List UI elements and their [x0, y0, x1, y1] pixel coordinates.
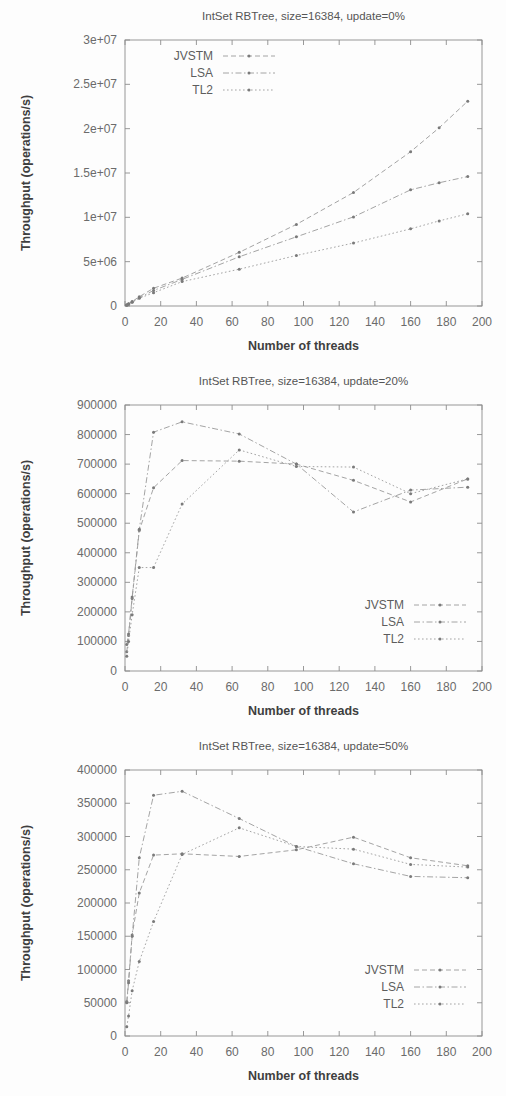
data-point-marker	[409, 150, 412, 153]
data-point-marker	[131, 935, 134, 938]
y-tick-label: 2e+07	[83, 122, 117, 136]
y-tick-label: 200000	[77, 605, 117, 619]
y-tick-label: 100000	[77, 963, 117, 977]
data-point-marker	[295, 848, 298, 851]
data-point-marker	[152, 291, 155, 294]
data-point-marker	[466, 212, 469, 215]
figure-sheet: IntSet RBTree, size=16384, update=0%05e+…	[0, 0, 506, 1096]
chart-title: IntSet RBTree, size=16384, update=0%	[202, 10, 405, 22]
x-tick-label: 60	[225, 680, 239, 694]
data-point-marker	[125, 1025, 128, 1028]
legend-label-JVSTM: JVSTM	[365, 963, 404, 977]
x-axis-label: Number of threads	[248, 704, 359, 718]
x-tick-label: 40	[190, 680, 204, 694]
x-tick-label: 180	[436, 1045, 456, 1059]
x-tick-label: 80	[261, 315, 275, 329]
data-point-marker	[409, 875, 412, 878]
data-point-marker	[152, 794, 155, 797]
data-point-marker	[152, 431, 155, 434]
x-tick-label: 40	[190, 315, 204, 329]
data-point-marker	[138, 960, 141, 963]
chart-background	[0, 730, 506, 1095]
x-tick-label: 160	[401, 1045, 421, 1059]
chart-panel: IntSet RBTree, size=16384, update=20%010…	[0, 365, 506, 730]
data-point-marker	[352, 479, 355, 482]
legend-marker-LSA	[439, 621, 442, 624]
chart-panel: IntSet RBTree, size=16384, update=0%05e+…	[0, 0, 506, 365]
data-point-marker	[127, 640, 130, 643]
data-point-marker	[238, 460, 241, 463]
data-point-marker	[138, 528, 141, 531]
x-tick-label: 60	[225, 315, 239, 329]
legend-label-TL2: TL2	[383, 997, 404, 1011]
y-axis-label: Throughput (operations/s)	[19, 825, 33, 981]
x-axis-label: Number of threads	[248, 339, 359, 353]
legend-label-JVSTM: JVSTM	[174, 49, 213, 63]
data-point-marker	[131, 301, 134, 304]
y-tick-label: 250000	[77, 863, 117, 877]
chart-background	[0, 0, 506, 365]
legend-marker-LSA	[439, 986, 442, 989]
data-point-marker	[238, 255, 241, 258]
data-point-marker	[409, 863, 412, 866]
data-point-marker	[295, 223, 298, 226]
x-tick-label: 120	[329, 1045, 349, 1059]
x-tick-label: 60	[225, 1045, 239, 1059]
y-tick-label: 350000	[77, 796, 117, 810]
x-tick-label: 140	[365, 1045, 385, 1059]
data-point-marker	[138, 566, 141, 569]
x-tick-label: 40	[190, 1045, 204, 1059]
data-point-marker	[466, 876, 469, 879]
y-axis-label: Throughput (operations/s)	[19, 95, 33, 251]
data-point-marker	[152, 566, 155, 569]
x-tick-label: 120	[329, 315, 349, 329]
legend-marker-TL2	[248, 89, 251, 92]
legend-label-JVSTM: JVSTM	[365, 598, 404, 612]
x-tick-label: 80	[261, 1045, 275, 1059]
data-point-marker	[127, 1015, 130, 1018]
data-point-marker	[438, 219, 441, 222]
data-point-marker	[138, 297, 141, 300]
data-point-marker	[409, 500, 412, 503]
data-point-marker	[352, 191, 355, 194]
y-tick-label: 900000	[77, 398, 117, 412]
data-point-marker	[352, 242, 355, 245]
x-axis-label: Number of threads	[248, 1069, 359, 1083]
data-point-marker	[466, 100, 469, 103]
data-point-marker	[466, 486, 469, 489]
data-point-marker	[181, 790, 184, 793]
chart-panel: IntSet RBTree, size=16384, update=50%050…	[0, 730, 506, 1095]
legend-marker-JVSTM	[248, 55, 251, 58]
y-tick-label: 0	[110, 664, 117, 678]
legend-marker-JVSTM	[439, 969, 442, 972]
y-tick-label: 300000	[77, 575, 117, 589]
data-point-marker	[409, 489, 412, 492]
data-point-marker	[295, 235, 298, 238]
x-tick-label: 20	[154, 680, 168, 694]
data-point-marker	[181, 280, 184, 283]
x-tick-label: 100	[293, 1045, 313, 1059]
y-tick-label: 0	[110, 299, 117, 313]
y-tick-label: 600000	[77, 487, 117, 501]
y-axis-label: Throughput (operations/s)	[19, 460, 33, 616]
data-point-marker	[181, 853, 184, 856]
legend-marker-TL2	[439, 1003, 442, 1006]
legend-marker-TL2	[439, 638, 442, 641]
y-tick-label: 300000	[77, 830, 117, 844]
y-tick-label: 150000	[77, 929, 117, 943]
x-tick-label: 180	[436, 315, 456, 329]
data-point-marker	[438, 181, 441, 184]
y-tick-label: 1e+07	[83, 210, 117, 224]
data-point-marker	[466, 175, 469, 178]
data-point-marker	[466, 866, 469, 869]
data-point-marker	[409, 492, 412, 495]
x-tick-label: 200	[472, 315, 492, 329]
y-tick-label: 2.5e+07	[73, 77, 117, 91]
data-point-marker	[125, 655, 128, 658]
chart-chart-update-20: IntSet RBTree, size=16384, update=20%010…	[0, 365, 506, 730]
x-tick-label: 0	[122, 1045, 129, 1059]
legend-marker-JVSTM	[439, 604, 442, 607]
data-point-marker	[181, 420, 184, 423]
legend-label-LSA: LSA	[381, 980, 404, 994]
data-point-marker	[125, 643, 128, 646]
